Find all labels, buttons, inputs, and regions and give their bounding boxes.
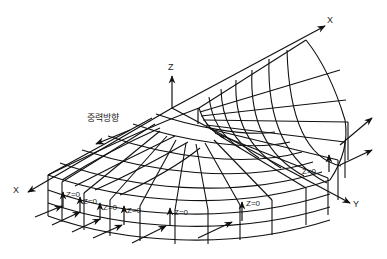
mesh-diagram <box>0 0 387 259</box>
x-axis-back-label: X <box>327 16 333 25</box>
y-axis-label: Y <box>353 200 359 209</box>
boundary-label: Z=0 <box>66 191 80 199</box>
z-axis-label: Z <box>168 63 174 72</box>
boundary-label: Z=0 <box>246 200 260 208</box>
axes <box>28 26 350 203</box>
boundary-label: Z=0 <box>302 168 316 176</box>
boundary-label: Z=0 <box>174 209 188 217</box>
x-axis-front-label: X <box>13 186 19 195</box>
top-surface-mesh <box>48 40 348 210</box>
gravity-direction-label: 중력방향 <box>87 114 119 123</box>
boundary-label: Z=0 <box>83 198 97 206</box>
boundary-label: Z=0 <box>127 207 141 215</box>
x-axis-back <box>172 26 325 108</box>
boundary-label: Z=0 <box>103 204 117 212</box>
